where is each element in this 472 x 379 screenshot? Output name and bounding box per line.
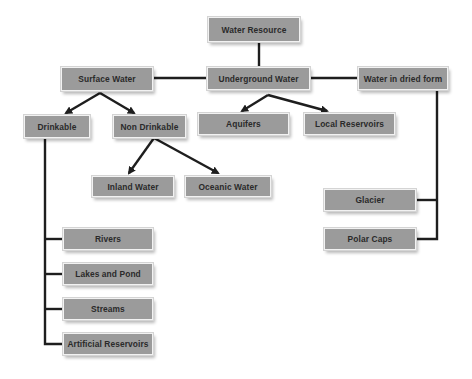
node-label: Rivers: [95, 234, 121, 244]
arrow-surface-nondrinkable: [100, 93, 134, 113]
connector-drinkable-bracket: [45, 138, 63, 344]
arrow-underground-localreservoirs: [268, 95, 327, 111]
node-label: Surface Water: [78, 74, 135, 84]
node-label: Water Resource: [222, 25, 287, 35]
node-oceanic-water: Oceanic Water: [185, 176, 271, 197]
node-artificial-reservoirs: Artificial Reservoirs: [63, 333, 153, 355]
water-resource-diagram: Water Resource Surface Water Underground…: [0, 0, 472, 379]
node-water-in-dried-form: Water in dried form: [358, 67, 448, 90]
node-drinkable: Drinkable: [24, 115, 90, 138]
node-water-resource: Water Resource: [208, 17, 300, 42]
node-label: Local Reservoirs: [315, 119, 384, 129]
node-label: Streams: [91, 304, 125, 314]
node-label: Drinkable: [37, 122, 76, 132]
arrow-underground-aquifers: [242, 95, 268, 111]
node-label: Polar Caps: [348, 234, 393, 244]
node-local-reservoirs: Local Reservoirs: [304, 113, 395, 135]
arrow-nondrinkable-inland: [129, 138, 154, 173]
node-surface-water: Surface Water: [61, 67, 153, 91]
node-label: Inland Water: [107, 182, 158, 192]
arrow-nondrinkable-oceanic: [154, 138, 218, 173]
node-rivers: Rivers: [63, 228, 153, 250]
node-label: Aquifers: [226, 119, 261, 129]
node-underground-water: Underground Water: [207, 67, 310, 90]
node-inland-water: Inland Water: [92, 176, 174, 197]
node-label: Oceanic Water: [198, 182, 257, 192]
node-streams: Streams: [63, 298, 153, 320]
arrow-surface-drinkable: [66, 93, 100, 113]
node-label: Water in dried form: [364, 74, 442, 84]
node-glacier: Glacier: [324, 189, 416, 211]
node-label: Underground Water: [218, 74, 298, 84]
node-lakes-and-pond: Lakes and Pond: [63, 263, 153, 285]
connector-dried-bracket: [417, 90, 437, 239]
node-label: Lakes and Pond: [75, 269, 141, 279]
node-non-drinkable: Non Drinkable: [113, 115, 186, 138]
node-label: Non Drinkable: [120, 122, 178, 132]
node-polar-caps: Polar Caps: [324, 228, 416, 250]
node-label: Artificial Reservoirs: [67, 339, 148, 349]
node-aquifers: Aquifers: [198, 113, 289, 135]
node-label: Glacier: [355, 195, 384, 205]
